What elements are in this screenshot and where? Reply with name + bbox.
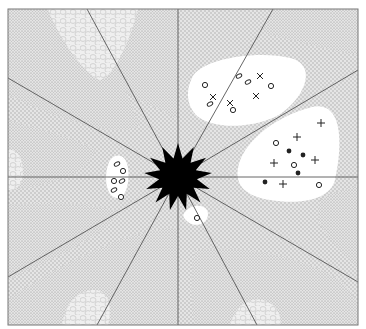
dot-marker-icon <box>287 149 292 154</box>
circle-marker-icon <box>230 107 235 112</box>
dot-marker-icon <box>301 153 306 158</box>
circle-marker-icon <box>202 82 207 87</box>
circle-marker-icon <box>118 194 123 199</box>
diagram-canvas <box>0 0 366 329</box>
dot-marker-icon <box>296 171 301 176</box>
circle-marker-icon <box>111 178 116 183</box>
dot-marker-icon <box>263 180 268 185</box>
circle-marker-icon <box>316 182 321 187</box>
circle-marker-icon <box>268 83 273 88</box>
circle-marker-icon <box>194 215 199 220</box>
radial-diagram-figure <box>0 0 366 329</box>
circle-marker-icon <box>291 162 296 167</box>
circle-marker-icon <box>273 140 278 145</box>
circle-marker-icon <box>120 168 125 173</box>
